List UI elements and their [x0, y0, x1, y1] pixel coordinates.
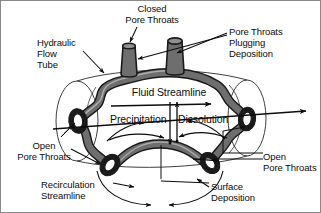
label-open-pore-throats-right: Open Pore Throats [263, 151, 321, 173]
label-surface-deposition: Surface Deposition [211, 181, 277, 203]
label-hydraulic-flow-tube: Hydraulic Flow Tube [37, 37, 101, 71]
label-dissolution: Dissolution [178, 113, 238, 125]
label-precipitation: Precipitation [110, 113, 172, 125]
label-pore-throats-plugging-deposition: Pore Throats Plugging Deposition [229, 26, 321, 60]
label-open-pore-throats-left: Open Pore Throats [3, 140, 85, 162]
streamline-arrow-icon [111, 104, 211, 106]
pore-network-diagram: Closed Pore Throats Pore Throats Pluggin… [0, 0, 321, 213]
label-fluid-streamline: Fluid Streamline [121, 86, 217, 98]
label-recirculation-streamline: Recirculation Streamline [41, 179, 111, 201]
label-closed-pore-throats: Closed Pore Throats [105, 3, 199, 25]
